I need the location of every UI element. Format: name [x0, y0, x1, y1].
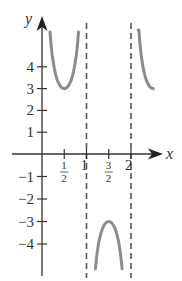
y-tick-label: −1	[18, 169, 34, 185]
y-ticks: 4321−1−2−3−4	[18, 59, 47, 252]
y-tick-label: 4	[27, 59, 35, 75]
function-curves	[50, 30, 153, 269]
x-tick-label-numerator: 1	[61, 159, 67, 171]
x-tick-label: 2	[125, 157, 133, 173]
x-axis-label: x	[165, 145, 173, 162]
curve-branch-2	[95, 222, 122, 269]
chart-canvas: x y 121322 4321−1−2−3−4	[0, 0, 182, 281]
axes: x y	[12, 10, 173, 276]
x-tick-label-denominator: 2	[106, 172, 112, 184]
curve-branch-3	[138, 30, 153, 89]
y-tick-label: −2	[18, 191, 34, 207]
y-tick-label: −3	[18, 214, 34, 230]
y-tick-label: 1	[27, 124, 35, 140]
y-tick-label: −4	[18, 236, 34, 252]
x-tick-label-denominator: 2	[61, 172, 67, 184]
y-tick-label: 2	[27, 102, 35, 118]
x-tick-label: 1	[81, 157, 89, 173]
y-axis-label: y	[23, 10, 33, 28]
y-tick-label: 3	[27, 81, 35, 97]
curve-branch-1	[50, 32, 79, 89]
x-tick-label-numerator: 3	[106, 159, 112, 171]
